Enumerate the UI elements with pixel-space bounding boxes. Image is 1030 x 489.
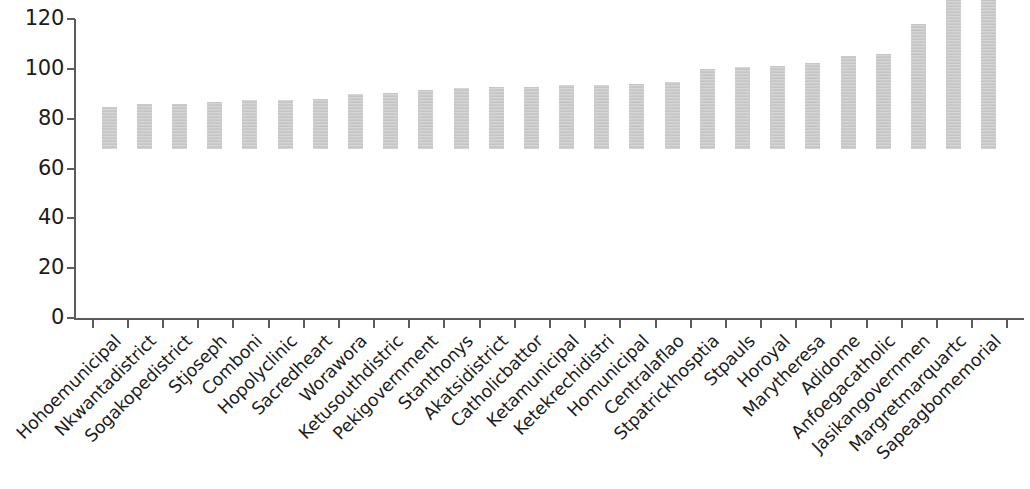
x-axis-tick [127, 320, 129, 328]
x-axis-tick [303, 320, 305, 328]
x-axis-tick [901, 320, 903, 328]
x-axis-tick [549, 320, 551, 328]
bar-chart: 020406080100120 HohoemunicipalNkwantadis… [0, 0, 1030, 489]
bar [629, 84, 644, 149]
bar [841, 56, 856, 149]
x-axis-tick [373, 320, 375, 328]
bar [946, 0, 961, 149]
x-axis-tick [936, 320, 938, 328]
bar [524, 87, 539, 149]
bar [242, 100, 257, 149]
x-axis-tick [268, 320, 270, 328]
x-axis-tick [92, 320, 94, 328]
x-axis-tick [725, 320, 727, 328]
x-axis-tick [830, 320, 832, 328]
x-axis-tick [162, 320, 164, 328]
bar [137, 104, 152, 149]
bar [313, 99, 328, 149]
bar [348, 94, 363, 149]
bar [700, 69, 715, 149]
bar [981, 0, 996, 149]
bar [876, 54, 891, 149]
bar [489, 87, 504, 149]
bar [207, 102, 222, 149]
x-axis-tick [584, 320, 586, 328]
bar [418, 90, 433, 149]
x-axis-tick [338, 320, 340, 328]
x-axis-tick [197, 320, 199, 328]
x-axis-tick [232, 320, 234, 328]
x-axis-tick [514, 320, 516, 328]
bar [770, 66, 785, 149]
bar [735, 67, 750, 149]
x-axis-tick [479, 320, 481, 328]
bar [102, 107, 117, 149]
x-axis-tick [690, 320, 692, 328]
bar [559, 85, 574, 149]
x-axis-tick [408, 320, 410, 328]
bar [665, 82, 680, 149]
x-axis-tick [1006, 320, 1008, 328]
x-axis-tick [866, 320, 868, 328]
bar [172, 104, 187, 149]
x-axis-tick [655, 320, 657, 328]
x-axis-tick [795, 320, 797, 328]
x-axis-tick [443, 320, 445, 328]
x-axis-tick-labels: HohoemunicipalNkwantadistrictSogakopedis… [0, 328, 1030, 489]
x-axis-tick [760, 320, 762, 328]
bar [594, 85, 609, 149]
x-axis-tick [971, 320, 973, 328]
bar [911, 24, 926, 149]
bar [383, 93, 398, 149]
plot-area [0, 0, 1030, 320]
bar [278, 100, 293, 149]
bar [454, 88, 469, 149]
x-axis-tick [619, 320, 621, 328]
bar [805, 63, 820, 149]
